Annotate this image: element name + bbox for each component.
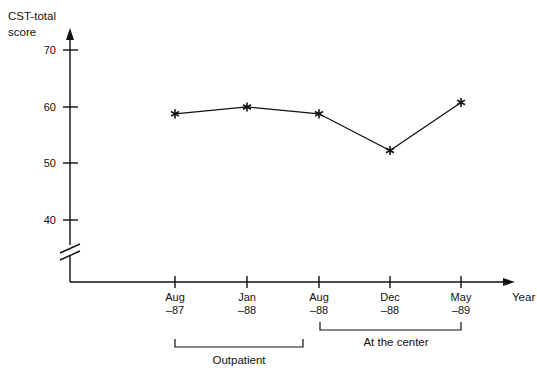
- line-chart: CST-total score 70 60 50 40 Year: [0, 0, 537, 375]
- bracket-outpatient: Outpatient: [175, 339, 303, 366]
- x-tick-label-2-bottom: –88: [310, 304, 328, 316]
- x-tick-label-3-top: Dec: [380, 291, 400, 303]
- y-tick-label-60: 60: [44, 101, 56, 113]
- bracket-at-the-center-label: At the center: [363, 336, 428, 348]
- y-tick-label-70: 70: [44, 44, 56, 56]
- x-tick-label-2-top: Aug: [309, 291, 329, 303]
- bracket-at-the-center: At the center: [320, 322, 461, 348]
- x-axis-title: Year: [512, 291, 535, 303]
- series-markers: [171, 98, 465, 155]
- data-point-3: [386, 146, 394, 155]
- x-tick-label-0-bottom: –87: [166, 304, 184, 316]
- x-tick-label-1-top: Jan: [238, 291, 256, 303]
- y-axis-arrowhead: [66, 28, 74, 40]
- y-tick-group: 70 60 50 40: [44, 44, 78, 226]
- bracket-outpatient-label: Outpatient: [212, 354, 266, 366]
- x-tick-label-3-bottom: –88: [381, 304, 399, 316]
- x-axis-arrowhead: [503, 278, 515, 286]
- y-tick-label-40: 40: [44, 214, 56, 226]
- y-tick-label-50: 50: [44, 157, 56, 169]
- y-axis-title-line2: score: [8, 26, 36, 38]
- x-tick-label-1-bottom: –88: [238, 304, 256, 316]
- data-point-4: [457, 98, 465, 107]
- x-tick-label-4-bottom: –89: [452, 304, 470, 316]
- x-tick-label-4-top: May: [451, 291, 472, 303]
- series-line: [175, 103, 461, 151]
- x-tick-label-0-top: Aug: [165, 291, 185, 303]
- chart-container: CST-total score 70 60 50 40 Year: [0, 0, 537, 375]
- y-axis-title-line1: CST-total: [8, 10, 56, 22]
